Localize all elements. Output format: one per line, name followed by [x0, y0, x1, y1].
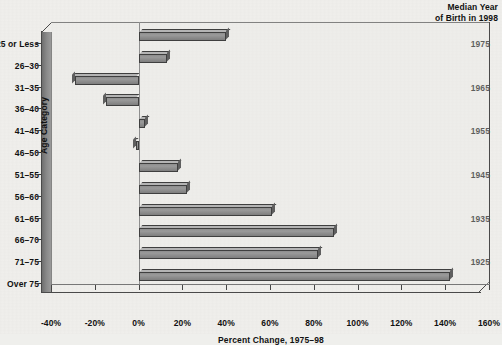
bar: [75, 76, 139, 85]
category-label: 66–70: [15, 235, 39, 245]
x-axis-tick: [95, 285, 96, 290]
bar: [139, 228, 334, 237]
x-axis-tick-label: 20%: [162, 318, 202, 328]
bar-side-face: [272, 202, 275, 214]
x-axis-tick-label: 160%: [469, 318, 502, 328]
y-axis-tick: [36, 43, 41, 44]
x-axis-tick-label: -20%: [75, 318, 115, 328]
x-axis-tick-label: 140%: [425, 318, 465, 328]
x-axis-tick-label: 40%: [206, 318, 246, 328]
category-axis-labels: 25 or Less26–3031–3536–4041–4546–5051–55…: [0, 22, 39, 293]
bar-face: [106, 97, 139, 106]
bar-side-face: [145, 115, 148, 127]
median-year-header: Median Year of Birth in 1998: [404, 2, 498, 23]
category-label: 36–40: [15, 104, 39, 114]
bar-side-face: [178, 158, 181, 170]
x-axis-tick: [489, 285, 490, 290]
x-axis-tick-label: 100%: [338, 318, 378, 328]
category-label: 25 or Less: [0, 39, 39, 49]
chart-plot-frame: -40%-20%0%20%40%60%80%100%120%140%160% P…: [41, 22, 490, 293]
y-axis-title: Age Category: [39, 97, 49, 154]
bar-face: [139, 163, 178, 172]
category-label: 71–75: [15, 257, 39, 267]
bar: [139, 54, 167, 63]
bar: [136, 141, 138, 150]
frame-bottom-edge: [41, 292, 481, 293]
bar-face: [75, 76, 139, 85]
x-axis-tick: [401, 285, 402, 290]
bar-face: [139, 207, 273, 216]
bar-side-face: [318, 246, 321, 258]
y-axis-tick: [36, 261, 41, 262]
category-label: 26–30: [15, 61, 39, 71]
bar: [139, 163, 178, 172]
category-label: 51–55: [15, 170, 39, 180]
bar: [139, 272, 450, 281]
x-axis-tick-label: 0%: [119, 318, 159, 328]
bar-face: [139, 32, 227, 41]
frame-right-edge: [489, 22, 490, 287]
x-axis-tick-label: 80%: [294, 318, 334, 328]
x-axis-tick-label: 60%: [250, 318, 290, 328]
bar: [139, 250, 319, 259]
y-axis-tick: [36, 239, 41, 240]
bar: [106, 97, 139, 106]
category-label: 41–45: [15, 126, 39, 136]
y-axis-tick: [36, 283, 41, 284]
chart-plot-area: [51, 22, 489, 284]
x-axis-title: Percent Change, 1975–98: [41, 335, 501, 345]
bar-face: [139, 228, 334, 237]
x-axis-tick: [51, 285, 52, 290]
bar-face: [139, 272, 450, 281]
category-label: 61–65: [15, 214, 39, 224]
x-axis-tick: [445, 285, 446, 290]
bar-face: [139, 54, 167, 63]
bar-face: [136, 141, 138, 150]
bar: [139, 207, 273, 216]
x-axis-tick: [358, 285, 359, 290]
y-axis-tick: [36, 218, 41, 219]
bar-face: [139, 119, 146, 128]
bar-side-face: [167, 49, 170, 61]
x-axis-tick: [182, 285, 183, 290]
bar-side-face: [187, 180, 190, 192]
bar: [139, 119, 146, 128]
bar-face: [139, 185, 187, 194]
x-axis-tick: [270, 285, 271, 290]
category-label: 31–35: [15, 83, 39, 93]
bar-side-face: [450, 268, 453, 280]
x-axis-tick: [226, 285, 227, 290]
x-axis-tick-label: 120%: [381, 318, 421, 328]
y-axis-tick: [36, 65, 41, 66]
median-year-header-line1: Median Year: [404, 2, 498, 13]
bar-side-face: [334, 224, 337, 236]
bar-face: [139, 250, 319, 259]
bar: [139, 185, 187, 194]
x-axis-tick-label: -40%: [31, 318, 71, 328]
category-label: 56–60: [15, 192, 39, 202]
x-axis-tick: [139, 285, 140, 290]
bar: [139, 32, 227, 41]
x-axis-tick: [314, 285, 315, 290]
y-axis-tick: [36, 196, 41, 197]
category-label: Over 75: [7, 279, 39, 289]
bar-side-face: [226, 27, 229, 39]
category-label: 46–50: [15, 148, 39, 158]
y-axis-tick: [36, 87, 41, 88]
y-axis-tick: [36, 174, 41, 175]
